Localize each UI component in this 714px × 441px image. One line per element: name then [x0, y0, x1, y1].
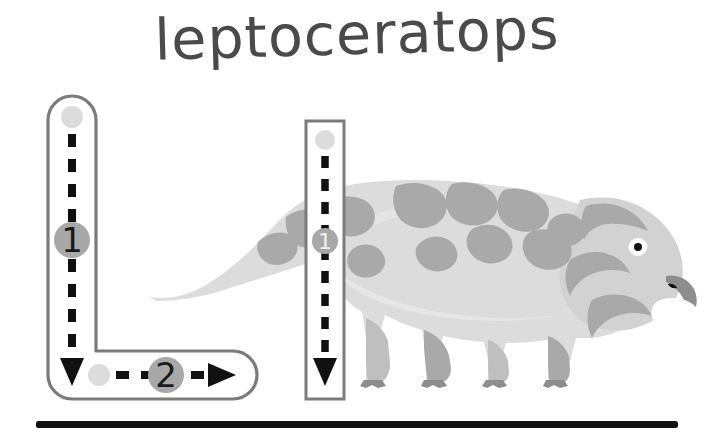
lowercase-stroke1-start-dot: [315, 130, 335, 150]
uppercase-stroke1-badge-label: 1: [61, 220, 83, 260]
tracing-guides-layer: 1 2 1: [0, 0, 714, 441]
lowercase-stroke1-badge-label: 1: [318, 229, 332, 254]
uppercase-stroke1-start-dot: [61, 106, 83, 128]
uppercase-stroke2-start-dot: [88, 364, 110, 386]
uppercase-stroke2-badge-label: 2: [155, 355, 177, 395]
worksheet-page: leptoceratops: [0, 0, 714, 441]
